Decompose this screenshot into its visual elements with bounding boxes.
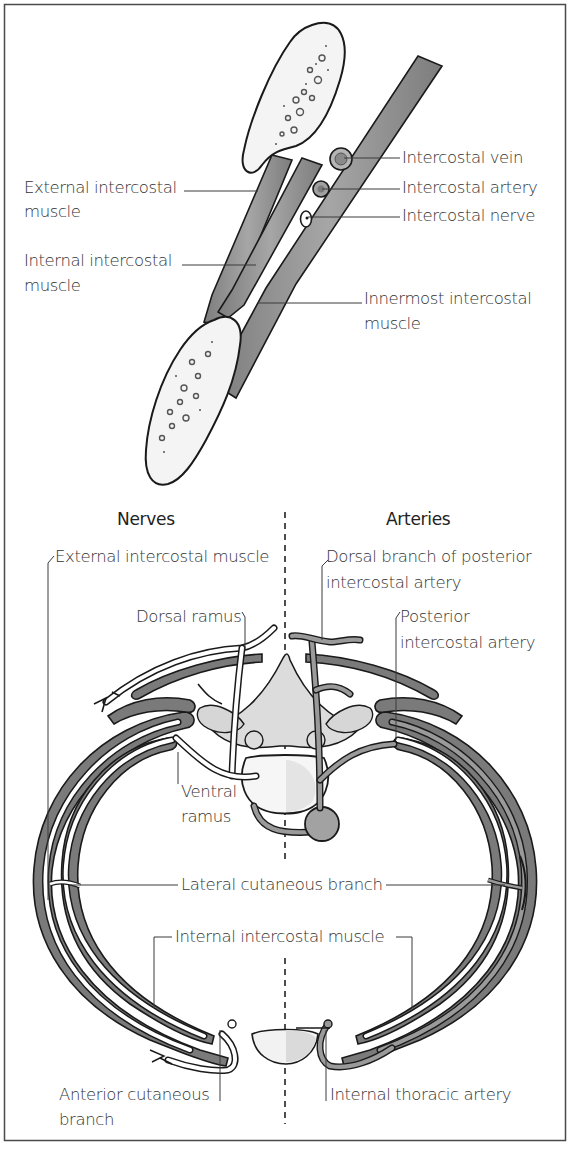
aorta: [305, 807, 339, 841]
label-dorsal-ramus: Dorsal ramus: [136, 607, 241, 626]
label-anterior-cutaneous-line2: branch: [59, 1110, 114, 1129]
label-internal-intercostal-muscle: Internal intercostal muscle: [175, 927, 384, 946]
label-internal-intercostal-line1: Internal intercostal: [24, 251, 172, 270]
header-arteries: Arteries: [386, 509, 451, 529]
label-intercostal-vein: Intercostal vein: [402, 148, 523, 167]
diagram-canvas: Intercostal vein Intercostal artery Inte…: [0, 0, 573, 1154]
label-internal-thoracic-artery: Internal thoracic artery: [330, 1085, 511, 1104]
label-external-intercostal-line2: muscle: [24, 202, 81, 221]
label-intercostal-nerve: Intercostal nerve: [402, 206, 535, 225]
label-intercostal-artery: Intercostal artery: [402, 178, 537, 197]
label-dorsal-branch-line1: Dorsal branch of posterior: [326, 547, 532, 566]
label-external-intercostal-muscle: External intercostal muscle: [55, 547, 269, 566]
label-posterior-intercostal-line1: Posterior: [400, 607, 470, 626]
header-nerves: Nerves: [117, 509, 175, 529]
label-internal-intercostal-line2: muscle: [24, 276, 81, 295]
label-ventral-ramus-line2: ramus: [181, 807, 231, 826]
label-posterior-intercostal-line2: intercostal artery: [400, 633, 535, 652]
label-external-intercostal-line1: External intercostal: [24, 178, 177, 197]
label-lateral-cutaneous-branch: Lateral cutaneous branch: [181, 875, 383, 894]
label-anterior-cutaneous-line1: Anterior cutaneous: [59, 1085, 210, 1104]
label-dorsal-branch-line2: intercostal artery: [326, 573, 461, 592]
label-innermost-intercostal-line2: muscle: [364, 314, 421, 333]
label-innermost-intercostal-line1: Innermost intercostal: [364, 289, 532, 308]
intercostal-anatomy-figure: Intercostal vein Intercostal artery Inte…: [0, 0, 573, 1154]
label-ventral-ramus-line1: Ventral: [181, 782, 237, 801]
